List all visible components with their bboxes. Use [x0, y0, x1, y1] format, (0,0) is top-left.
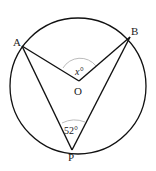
central-angle-label: x°	[74, 66, 83, 77]
inscribed-angle-label: 52°	[64, 125, 78, 136]
inscribed-angle-arc	[62, 120, 85, 123]
label-A: A	[13, 36, 21, 48]
label-P: P	[68, 151, 74, 163]
circle-geometry-diagram: A B O P x° 52°	[0, 0, 156, 171]
label-O: O	[74, 85, 82, 97]
label-B: B	[131, 25, 138, 37]
